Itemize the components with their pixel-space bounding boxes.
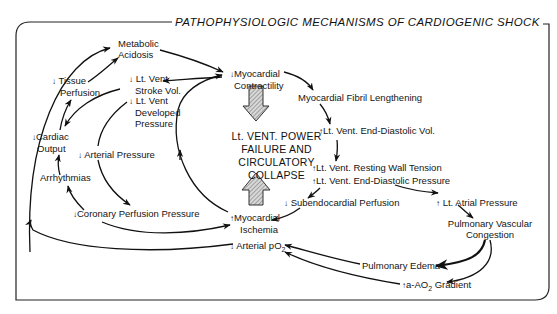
label-text: Lt. Vent. End-Diastolic Pressure (316, 175, 450, 186)
node-developed-pressure: ↓ Lt. Vent Developed Pressure (129, 95, 180, 129)
down-arrow-icon: ↓ (129, 75, 133, 84)
subscript: 2 (282, 246, 286, 253)
label-line: Myocardial (234, 212, 280, 223)
down-arrow-icon: ↓ (78, 151, 82, 160)
arrow-fibril-to-edv (320, 104, 330, 124)
label-line: Output (32, 143, 69, 154)
node-cardiac-output: ↓Cardiac Output (32, 131, 69, 154)
arrow-edema-to-po2 (285, 245, 360, 264)
node-myocardial-ischemia: ↑Myocardial Ischemia (230, 212, 280, 235)
arrow-congestion-to-edema (436, 240, 485, 266)
node-pulmonary-edema: Pulmonary Edema (362, 260, 440, 271)
hatched-down-arrow (243, 86, 269, 121)
label-line: Pulmonary Vascular (445, 218, 535, 229)
node-subendocardial-perfusion: ↓ Subendocardial Perfusion (284, 197, 399, 209)
node-resting-wall-tension: ↑Lt. Vent. Resting Wall Tension (312, 162, 442, 174)
arrow-metabolic-to-contractility (160, 50, 223, 72)
label-line: Congestion (445, 229, 535, 240)
node-metabolic-acidosis: Metabolic Acidosis (118, 38, 159, 60)
up-arrow-icon: ↑ (436, 199, 440, 208)
down-arrow-icon: ↓ (129, 97, 133, 106)
label-line: Contractility (230, 80, 284, 91)
label-line: Ischemia (230, 224, 280, 235)
node-aa-gradient: ↑a-AO2 Gradient (402, 279, 471, 294)
label-line: Tissue (58, 75, 86, 86)
node-atrial-pressure: ↑ Lt. Atrial Pressure (436, 197, 518, 209)
label-line: Metabolic (118, 38, 159, 49)
arrow-coronary-to-ischemia (102, 222, 230, 233)
arrow-contractility-to-fibril (284, 72, 313, 90)
down-arrow-icon: ↓ (52, 77, 56, 86)
label-line: Perfusion (52, 87, 100, 98)
down-arrow-icon: ↓ (230, 242, 234, 251)
label-line: Myocardial (234, 68, 280, 79)
label-text: a-AO (406, 279, 428, 290)
node-coronary-perfusion: ↓Coronary Perfusion Pressure (73, 208, 200, 220)
label-text: Lt. Vent. End-Diastolic Vol. (323, 125, 435, 136)
node-arterial-pressure: ↓ Arterial Pressure (78, 149, 155, 161)
node-fibril-lengthening: Myocardial Fibril Lengthening (298, 92, 422, 103)
node-arterial-po2: ↓ Arterial pO2 (230, 240, 285, 255)
label-line: Cardiac (36, 131, 69, 142)
label-text: Lt. Vent. Resting Wall Tension (316, 162, 442, 173)
arrow-arterial-to-coronary (98, 160, 130, 205)
label-text: Coronary Perfusion Pressure (77, 208, 200, 219)
label-text: Arterial pO (236, 240, 281, 251)
node-tissue-perfusion: ↓ Tissue Perfusion (52, 75, 100, 98)
diagram-title: PATHOPHYSIOLOGIC MECHANISMS OF CARDIOGEN… (172, 16, 543, 28)
node-arrhythmias: Arrhythmias (40, 172, 91, 183)
label-line: Pressure (129, 118, 180, 129)
arrow-congestion-to-gradient (447, 240, 491, 282)
label-text: Gradient (432, 279, 471, 290)
arrow-po2-to-outer (30, 220, 233, 250)
arrow-coronary-to-arrhythmias (68, 186, 84, 210)
node-end-diastolic-vol: ↑Lt. Vent. End-Diastolic Vol. (319, 125, 435, 137)
node-myocardial-contractility: ↓Myocardial Contractility (230, 68, 284, 91)
label-text: Lt. Atrial Pressure (443, 197, 518, 208)
label-line: Lt. Vent (136, 73, 168, 84)
central-line-2: FAILURE AND (214, 143, 339, 156)
node-pulmonary-congestion: Pulmonary Vascular Congestion (445, 218, 535, 240)
label-text: Subendocardial Perfusion (291, 197, 400, 208)
arrow-devpressure-curve (98, 102, 127, 146)
label-line: Acidosis (118, 49, 159, 60)
label-line: Lt. Vent (136, 95, 168, 106)
node-end-diastolic-pressure: ↑Lt. Vent. End-Diastolic Pressure (312, 175, 450, 187)
label-text: Arterial Pressure (84, 149, 155, 160)
node-stroke-vol: ↓ Lt. Vent Stroke Vol. (129, 73, 181, 96)
down-arrow-icon: ↓ (284, 199, 288, 208)
label-line: Developed (129, 107, 180, 118)
